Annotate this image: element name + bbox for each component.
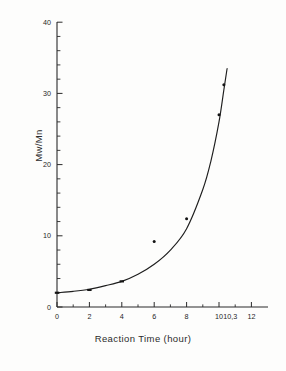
data-point bbox=[153, 240, 156, 243]
fitted-curve bbox=[57, 68, 227, 292]
data-point bbox=[218, 113, 221, 116]
y-tick-label: 10 bbox=[43, 231, 51, 240]
y-axis-title: Mw/Mn bbox=[33, 116, 44, 176]
data-point bbox=[222, 83, 225, 86]
x-tick-label: 6 bbox=[152, 312, 156, 321]
plot-canvas: 010203040 02468101210,3 bbox=[0, 0, 286, 371]
y-tick-label: 30 bbox=[43, 89, 51, 98]
x-tick-label: 10 bbox=[215, 312, 223, 321]
x-tick-label-extra: 10,3 bbox=[223, 312, 237, 321]
data-point-group bbox=[55, 83, 226, 294]
x-tick-label: 0 bbox=[55, 312, 59, 321]
x-tick-label: 8 bbox=[185, 312, 189, 321]
y-tick-label: 0 bbox=[47, 303, 51, 312]
y-tick-label: 20 bbox=[43, 160, 51, 169]
data-point bbox=[120, 280, 124, 282]
x-tick-label: 4 bbox=[120, 312, 124, 321]
x-axis-ticks bbox=[57, 302, 251, 307]
figure-scatter-plot: 010203040 02468101210,3 Reaction Time (h… bbox=[0, 0, 286, 371]
y-tick-label: 40 bbox=[43, 18, 51, 27]
data-point bbox=[87, 289, 91, 291]
x-tick-label: 2 bbox=[87, 312, 91, 321]
y-axis-tick-labels: 010203040 bbox=[43, 18, 51, 312]
data-point bbox=[185, 217, 188, 220]
x-tick-label: 12 bbox=[247, 312, 255, 321]
data-point bbox=[55, 292, 59, 294]
x-axis-title: Reaction Time (hour) bbox=[0, 333, 286, 344]
x-axis-tick-labels: 02468101210,3 bbox=[55, 312, 255, 321]
